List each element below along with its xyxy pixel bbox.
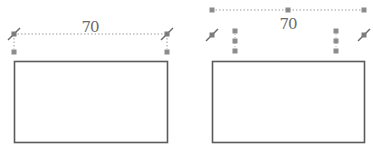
- left-leader-handle-icon[interactable]: [12, 50, 17, 55]
- left-slash-icon[interactable]: [206, 29, 218, 41]
- left-dimension-label[interactable]: 70: [81, 20, 98, 35]
- right-stack-handle-icon[interactable]: [334, 39, 339, 44]
- right-square-stack: [334, 29, 339, 54]
- right-stack-handle-icon[interactable]: [334, 29, 339, 34]
- left-stack-handle-icon[interactable]: [233, 49, 238, 54]
- right-rectangle-shape[interactable]: [213, 62, 365, 143]
- left-stack-handle-icon[interactable]: [233, 29, 238, 34]
- right-dimension-label[interactable]: 70: [279, 17, 296, 32]
- right-slash-icon[interactable]: [358, 29, 370, 41]
- top-left-handle-icon[interactable]: [210, 8, 215, 13]
- left-square-stack: [233, 29, 238, 54]
- top-right-handle-icon[interactable]: [362, 8, 367, 13]
- right-stack-handle-icon[interactable]: [334, 49, 339, 54]
- left-panel: [8, 28, 173, 143]
- right-leader-handle-icon[interactable]: [165, 50, 170, 55]
- left-rectangle-shape[interactable]: [15, 62, 168, 143]
- dimension-diagram-canvas: [0, 0, 373, 154]
- left-stack-handle-icon[interactable]: [233, 39, 238, 44]
- top-middle-handle-icon[interactable]: [286, 8, 291, 13]
